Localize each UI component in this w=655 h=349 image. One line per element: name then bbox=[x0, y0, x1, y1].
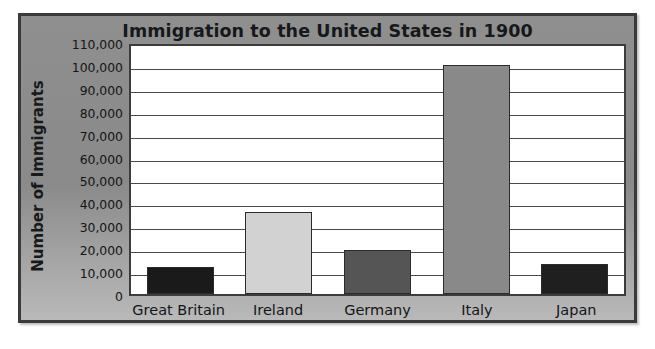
bar-slot bbox=[427, 46, 526, 294]
chart-figure: Immigration to the United States in 1900… bbox=[18, 13, 637, 323]
bar-slot bbox=[230, 46, 329, 294]
x-axis-category-label: Great Britain bbox=[129, 298, 228, 322]
y-axis-tick-label: 50,000 bbox=[80, 174, 123, 189]
y-axis-tick-label: 70,000 bbox=[80, 128, 123, 143]
bar-slot bbox=[131, 46, 230, 294]
y-axis-tick-labels: 110,000100,00090,00080,00070,00060,00050… bbox=[49, 44, 127, 296]
y-axis-tick-label: 90,000 bbox=[80, 82, 123, 97]
bar[interactable] bbox=[443, 65, 510, 294]
y-axis-tick-label: 40,000 bbox=[80, 197, 123, 212]
bar[interactable] bbox=[541, 264, 608, 294]
bar-slot bbox=[525, 46, 624, 294]
y-axis-tick-label: 20,000 bbox=[80, 243, 123, 258]
y-axis-tick-label: 30,000 bbox=[80, 220, 123, 235]
bar-series bbox=[131, 46, 624, 294]
y-axis-tick-label: 100,000 bbox=[72, 59, 123, 74]
bar[interactable] bbox=[147, 267, 214, 294]
bar[interactable] bbox=[245, 212, 312, 294]
y-axis-title: Number of Immigrants bbox=[27, 56, 49, 296]
y-axis-tick-label: 80,000 bbox=[80, 105, 123, 120]
bar-slot bbox=[328, 46, 427, 294]
y-axis-tick-label: 0 bbox=[115, 289, 123, 304]
x-axis-category-label: Ireland bbox=[228, 298, 327, 322]
x-axis-category-label: Germany bbox=[328, 298, 427, 322]
x-axis-category-label: Japan bbox=[527, 298, 626, 322]
y-axis-tick-label: 60,000 bbox=[80, 151, 123, 166]
y-axis-tick-label: 10,000 bbox=[80, 266, 123, 281]
plot-area bbox=[129, 44, 626, 296]
y-axis-tick-label: 110,000 bbox=[72, 37, 123, 52]
bar[interactable] bbox=[344, 250, 411, 294]
y-axis-title-text: Number of Immigrants bbox=[29, 80, 47, 271]
x-axis-category-labels: Great BritainIrelandGermanyItalyJapan bbox=[129, 298, 626, 322]
x-axis-category-label: Italy bbox=[427, 298, 526, 322]
